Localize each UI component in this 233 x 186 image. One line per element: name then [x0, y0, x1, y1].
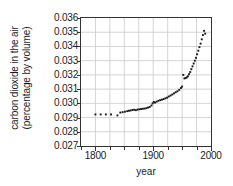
data-point: [200, 43, 202, 45]
x-axis-tick-labels: 180019002000: [60, 150, 233, 164]
data-point: [119, 112, 121, 114]
data-point: [126, 110, 128, 112]
data-point: [198, 46, 200, 48]
y-axis-tick-mark: [77, 132, 80, 133]
data-point: [133, 109, 135, 111]
data-point: [154, 102, 156, 104]
data-point: [116, 114, 118, 116]
data-point: [201, 38, 203, 40]
y-axis-tick-label: 0.033: [54, 56, 78, 66]
data-point: [144, 108, 146, 110]
y-axis-tick-label: 0.030: [54, 98, 78, 108]
plot-area: [80, 17, 212, 147]
data-point: [161, 99, 163, 101]
data-point: [163, 98, 165, 100]
data-point: [105, 113, 107, 115]
data-point: [182, 74, 184, 76]
data-point: [171, 94, 173, 96]
y-axis-tick-label: 0.036: [54, 13, 78, 23]
data-point: [130, 109, 132, 111]
data-point: [178, 89, 180, 91]
data-point: [203, 30, 205, 32]
data-point: [168, 96, 170, 98]
data-point: [189, 71, 191, 73]
data-point: [173, 92, 175, 94]
data-point: [122, 111, 124, 113]
data-point: [131, 109, 133, 111]
data-point: [177, 90, 179, 92]
y-axis-tick-label: 0.029: [54, 113, 78, 123]
data-point: [151, 105, 153, 107]
data-point: [197, 50, 199, 52]
data-point: [157, 100, 159, 102]
plot-svg: [81, 18, 211, 146]
data-point: [149, 106, 151, 108]
data-point: [188, 73, 190, 75]
x-axis-title: year: [80, 166, 212, 178]
y-axis-tick-mark: [77, 61, 80, 62]
data-point: [137, 109, 139, 111]
y-axis-tick-mark: [77, 89, 80, 90]
y-axis-tick-label: 0.028: [54, 127, 78, 137]
y-axis-tick-mark: [77, 18, 80, 19]
data-point: [140, 108, 142, 110]
data-point: [181, 86, 183, 88]
x-axis-tick-label: 1800: [85, 150, 106, 162]
y-axis-tick-mark: [77, 46, 80, 47]
x-axis-tick-label: 1900: [142, 150, 163, 162]
x-axis-tick-label: 2000: [200, 150, 221, 162]
data-point: [202, 34, 204, 36]
y-axis-tick-label: 0.032: [54, 70, 78, 80]
data-point: [138, 108, 140, 110]
data-point: [192, 65, 194, 67]
y-axis-tick-label: 0.034: [54, 41, 78, 51]
data-point: [204, 33, 206, 35]
y-axis-tick-mark: [77, 75, 80, 76]
data-point: [110, 113, 112, 115]
data-point: [193, 63, 195, 65]
data-point: [194, 60, 196, 62]
data-point: [195, 57, 197, 59]
y-axis-tick-mark: [77, 118, 80, 119]
data-point: [175, 91, 177, 93]
y-axis-title-line-1: carbon dioxide in the air: [9, 26, 21, 130]
y-axis-tick-labels: 0.0270.0280.0290.0300.0310.0320.0330.034…: [38, 11, 79, 153]
data-point: [159, 99, 161, 101]
y-axis-title-line-2: (percentage by volume): [20, 26, 32, 130]
data-point: [135, 109, 137, 111]
data-point: [94, 113, 96, 115]
data-point: [100, 113, 102, 115]
y-axis-tick-mark: [77, 146, 80, 147]
y-axis-tick-label: 0.031: [54, 84, 78, 94]
vertical-gridlines: [95, 18, 196, 146]
data-point: [145, 107, 147, 109]
y-axis-tick-mark: [77, 103, 80, 104]
data-point: [142, 108, 144, 110]
data-point: [164, 97, 166, 99]
data-point: [128, 110, 130, 112]
y-axis-tick-mark: [77, 32, 80, 33]
data-point: [124, 111, 126, 113]
data-point: [187, 75, 189, 77]
data-point: [190, 68, 192, 70]
data-point: [196, 53, 198, 55]
y-axis-title: carbon dioxide in the air (percentage by…: [0, 0, 40, 155]
co2-scatter-chart: carbon dioxide in the air (percentage by…: [0, 0, 233, 186]
horizontal-gridlines: [81, 32, 211, 132]
data-point: [170, 95, 172, 97]
data-point: [156, 101, 158, 103]
y-axis-tick-label: 0.035: [54, 27, 78, 37]
data-point: [147, 107, 149, 109]
data-point: [166, 97, 168, 99]
